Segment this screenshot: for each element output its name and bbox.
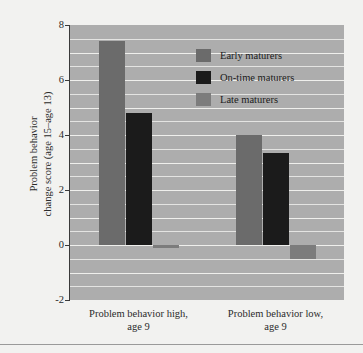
gridline [70, 259, 344, 260]
x-axis-label-group-2: Problem behavior low, age 9 [207, 307, 344, 333]
y-axis-title: Problem behavior change score (age 15–ag… [27, 29, 55, 279]
y-axis-tick-mark [65, 80, 69, 81]
x-axis-label-group-1-line-2: age 9 [70, 320, 207, 333]
figure-bottom-rule [0, 344, 363, 345]
bar [153, 245, 179, 248]
legend-label-early-maturers: Early maturers [220, 50, 282, 61]
legend-swatch-late-maturers [196, 93, 211, 106]
bar [99, 41, 125, 245]
y-axis-title-line-1: Problem behavior [27, 29, 41, 279]
bar [236, 135, 262, 245]
y-axis-tick-mark [65, 190, 69, 191]
x-axis-label-group-2-line-2: age 9 [207, 320, 344, 333]
x-axis-label-group-1: Problem behavior high, age 9 [70, 307, 207, 333]
bar [263, 153, 289, 245]
legend: Early maturers On-time maturers Late mat… [196, 44, 294, 110]
bar [290, 245, 316, 259]
legend-label-late-maturers: Late maturers [220, 94, 278, 105]
legend-label-on-time-maturers: On-time maturers [220, 72, 294, 83]
y-axis-tick-mark [65, 25, 69, 26]
bar-chart-figure: 86420-2 Problem behavior change score (a… [0, 0, 363, 353]
legend-item-on-time-maturers: On-time maturers [196, 66, 294, 88]
legend-item-early-maturers: Early maturers [196, 44, 294, 66]
gridline [70, 273, 344, 274]
y-axis-tick-mark [65, 135, 69, 136]
y-axis-tick-mark [65, 245, 69, 246]
y-axis-tick-label: -2 [24, 294, 64, 305]
legend-swatch-early-maturers [196, 49, 211, 62]
bar [126, 113, 152, 245]
gridline [70, 286, 344, 287]
x-axis-label-group-1-line-1: Problem behavior high, [70, 307, 207, 320]
legend-swatch-on-time-maturers [196, 71, 211, 84]
x-axis-label-group-2-line-1: Problem behavior low, [207, 307, 344, 320]
y-axis-line [69, 25, 70, 301]
legend-item-late-maturers: Late maturers [196, 88, 294, 110]
y-axis-title-line-2: change score (age 15–age 13) [41, 29, 55, 279]
y-axis-tick-mark [65, 300, 69, 301]
gridline [70, 39, 344, 40]
